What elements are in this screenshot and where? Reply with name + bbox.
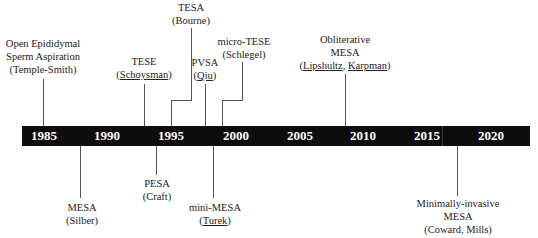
event-author: (Coward, Mills) <box>417 223 500 236</box>
connector-micro-tese-lower <box>222 100 223 126</box>
event-title: mini-MESA <box>189 201 241 214</box>
event-title: MESA <box>66 201 98 214</box>
year-label-2005: 2005 <box>287 128 313 144</box>
event-tesa: TESA (Bourne) <box>172 1 210 27</box>
timeline-bar: 1985 1990 1995 2000 2005 2010 2015 2020 <box>22 126 530 146</box>
event-author: (Silber) <box>66 214 98 227</box>
paren: ) <box>227 215 231 226</box>
connector-obliterative-mesa <box>345 74 346 126</box>
event-title-line: MESA <box>417 210 500 223</box>
year-label-1990: 1990 <box>94 128 120 144</box>
author-name-underlined: Turek <box>203 215 228 226</box>
event-obliterative-mesa: Obliterative MESA (Lipshultz, Karpman) <box>300 33 391 72</box>
connector-mini-mesa <box>213 146 214 198</box>
event-author: (Schoysman) <box>116 68 171 81</box>
year-label-2020: 2020 <box>478 128 504 144</box>
event-open-epididymal-sperm-aspiration: Open Epididymal Sperm Aspiration (Temple… <box>6 37 80 76</box>
event-title: TESA <box>172 1 210 14</box>
paren: ) <box>168 69 172 80</box>
author-name-underlined: Lipshultz <box>303 60 343 71</box>
connector-mesa-silber <box>80 146 81 198</box>
author-name-underlined: Schoysman <box>120 69 168 80</box>
year-label-1995: 1995 <box>158 128 184 144</box>
event-author: (Lipshultz, Karpman) <box>300 59 391 72</box>
event-author: (Schlegel) <box>217 48 270 61</box>
event-tese: TESE (Schoysman) <box>116 55 171 81</box>
event-author: (Craft) <box>143 190 172 203</box>
connector-pesa <box>156 146 157 175</box>
event-title: TESE <box>116 55 171 68</box>
event-title: PESA <box>143 177 172 190</box>
connector-tesa-lower <box>171 100 172 126</box>
event-author: (Turek) <box>189 214 241 227</box>
connector-pvsa <box>205 84 206 126</box>
connector-tesa-horizontal <box>171 100 192 101</box>
connector-micro-tese-upper <box>242 62 243 101</box>
connector-tese <box>144 84 145 126</box>
event-pesa: PESA (Craft) <box>143 177 172 203</box>
paren: ) <box>213 70 217 81</box>
event-minimally-invasive-mesa: Minimally-invasive MESA (Coward, Mills) <box>417 197 500 236</box>
paren: ) <box>387 60 391 71</box>
bar-divider <box>442 126 443 146</box>
event-author: (Temple-Smith) <box>6 63 80 76</box>
event-title-line: Sperm Aspiration <box>6 50 80 63</box>
event-title-line: Obliterative <box>300 33 391 46</box>
event-author: (Bourne) <box>172 14 210 27</box>
event-title-line: MESA <box>300 46 391 59</box>
event-title: micro-TESE <box>217 35 270 48</box>
year-label-2015: 2015 <box>414 128 440 144</box>
connector-minimally-invasive-mesa <box>457 146 458 196</box>
author-name-underlined: Karpman <box>348 60 387 71</box>
author-name-underlined: Qiu <box>197 70 213 81</box>
year-label-2010: 2010 <box>350 128 376 144</box>
event-mini-mesa: mini-MESA (Turek) <box>189 201 241 227</box>
event-title-line: Open Epididymal <box>6 37 80 50</box>
year-label-1985: 1985 <box>31 128 57 144</box>
connector-micro-tese-horizontal <box>222 100 243 101</box>
event-mesa-silber: MESA (Silber) <box>66 201 98 227</box>
connector-temple-smith <box>43 79 44 126</box>
year-label-2000: 2000 <box>223 128 249 144</box>
event-pvsa: PVSA (Qiu) <box>192 56 219 82</box>
event-title: PVSA <box>192 56 219 69</box>
event-title-line: Minimally-invasive <box>417 197 500 210</box>
event-author: (Qiu) <box>192 69 219 82</box>
event-micro-tese: micro-TESE (Schlegel) <box>217 35 270 61</box>
